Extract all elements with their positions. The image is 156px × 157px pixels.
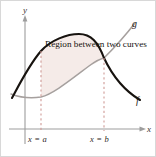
y-axis-arrowhead — [23, 15, 28, 22]
x-axis-label: x — [147, 125, 151, 134]
x-axis-arrowhead — [140, 127, 147, 132]
lower-limit-label: x = a — [28, 135, 47, 144]
region-caption: Region between two curves — [45, 39, 97, 50]
y-axis-label: y — [23, 6, 27, 15]
curve-f-label: f — [136, 96, 139, 106]
upper-limit-label: x = b — [90, 135, 109, 144]
curve-g-label: g — [132, 19, 137, 29]
figure-region-between-two-curves: Region between two curves y x g f x = a … — [0, 0, 156, 157]
